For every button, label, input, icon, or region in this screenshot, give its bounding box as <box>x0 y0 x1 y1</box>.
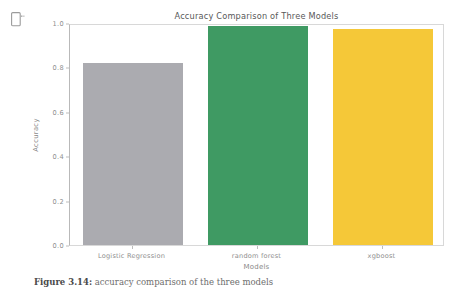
bar-random-forest <box>208 26 308 245</box>
notebook-output-cell: Accuracy Comparison of Three Models Accu… <box>0 0 460 288</box>
x-tick-label: random forest <box>232 252 281 260</box>
x-tick-label: Logistic Regression <box>98 252 165 260</box>
y-tick-label: 0.0 <box>53 242 64 250</box>
x-tick-label: xgboost <box>368 252 396 260</box>
y-tick-label: 0.6 <box>53 109 64 117</box>
chart-title: Accuracy Comparison of Three Models <box>69 11 444 21</box>
bar-xgboost <box>333 29 433 245</box>
y-tick-label: 1.0 <box>53 20 64 28</box>
x-tick-mark <box>132 246 133 249</box>
bar-logistic-regression <box>83 63 183 245</box>
figure-caption: Figure 3.14: accuracy comparison of the … <box>34 277 454 287</box>
y-tick-label: 0.4 <box>53 153 64 161</box>
matplotlib-figure: Accuracy Comparison of Three Models Accu… <box>30 6 454 274</box>
y-tick-label: 0.2 <box>53 198 64 206</box>
y-tick-label: 0.8 <box>53 64 64 72</box>
x-tick-mark <box>382 246 383 249</box>
figure-caption-label: Figure 3.14: <box>34 277 92 287</box>
plot-area <box>69 24 444 246</box>
y-axis-label: Accuracy <box>32 118 40 151</box>
figure-caption-text: accuracy comparison of the three models <box>92 277 273 287</box>
x-axis: Models Logistic Regressionrandom forestx… <box>69 246 444 274</box>
x-tick-mark <box>257 246 258 249</box>
output-cell-icon <box>11 12 25 27</box>
y-axis: Accuracy 0.00.20.40.60.81.0 <box>30 24 69 246</box>
x-axis-label: Models <box>69 263 444 271</box>
